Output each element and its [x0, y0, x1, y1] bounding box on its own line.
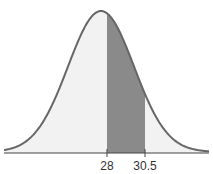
tick-label-30-5: 30.5 — [133, 159, 157, 173]
tick-label-28: 28 — [100, 159, 114, 173]
normal-curve-chart: 28 30.5 — [0, 0, 213, 174]
